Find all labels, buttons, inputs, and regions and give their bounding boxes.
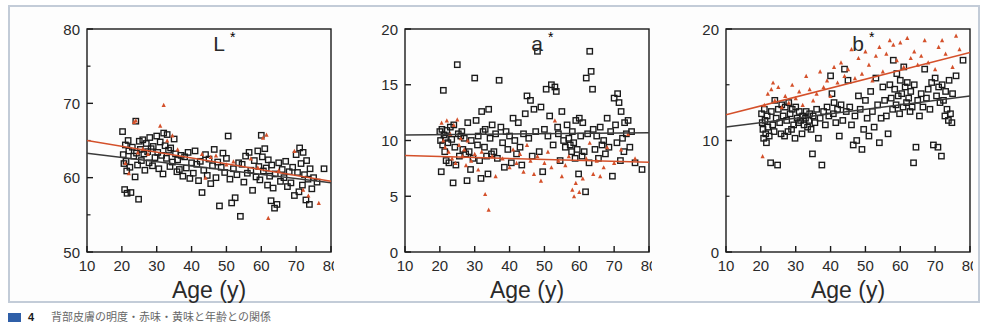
data-point-square	[212, 147, 217, 152]
x-tick-label: 20	[753, 257, 770, 274]
data-point-triangle	[933, 67, 937, 71]
caption-marker-icon	[8, 313, 21, 322]
data-point-triangle	[162, 103, 166, 107]
data-point-triangle	[165, 138, 169, 142]
data-point-triangle	[574, 181, 578, 185]
data-point-square	[523, 111, 528, 116]
x-tick-label: 70	[606, 257, 623, 274]
data-point-triangle	[317, 201, 321, 205]
x-tick-label: 20	[114, 257, 131, 274]
data-point-triangle	[822, 85, 826, 89]
data-point-square	[856, 93, 861, 98]
data-point-square	[590, 87, 595, 92]
data-point-square	[934, 93, 939, 98]
data-point-square	[276, 160, 281, 165]
data-point-square	[870, 109, 875, 114]
data-point-square	[121, 152, 126, 157]
data-point-triangle	[521, 170, 525, 174]
data-point-square	[912, 82, 917, 87]
data-point-square	[225, 133, 230, 138]
data-point-square	[863, 98, 868, 103]
figure-root: 506070801020304050607080L*Age (y) 051015…	[0, 0, 988, 326]
x-tick-label: 30	[466, 257, 483, 274]
data-point-square	[278, 179, 283, 184]
data-point-square	[486, 107, 491, 112]
data-point-triangle	[264, 132, 268, 136]
data-point-square	[868, 89, 873, 94]
data-point-square	[234, 172, 239, 177]
data-point-square	[610, 173, 615, 178]
data-point-square	[816, 136, 821, 141]
data-point-square	[161, 130, 166, 135]
data-point-square	[864, 116, 869, 121]
data-point-triangle	[553, 118, 557, 122]
data-point-square	[482, 144, 487, 149]
data-point-triangle	[856, 56, 860, 60]
data-point-square	[496, 78, 501, 83]
y-tick-label: 70	[63, 95, 80, 112]
data-point-square	[477, 158, 482, 163]
data-point-square	[472, 75, 477, 80]
data-point-square	[576, 171, 581, 176]
x-tick-label: 40	[183, 257, 200, 274]
data-point-triangle	[937, 45, 941, 49]
plot-frame	[87, 29, 331, 252]
data-point-triangle	[923, 38, 927, 42]
data-point-square	[140, 137, 145, 142]
x-tick-label: 50	[536, 257, 553, 274]
data-point-square	[792, 136, 797, 141]
data-point-square	[799, 131, 804, 136]
data-point-square	[519, 162, 524, 167]
data-point-triangle	[832, 65, 836, 69]
data-point-square	[604, 116, 609, 121]
data-point-square	[840, 118, 845, 123]
data-point-square	[478, 176, 483, 181]
data-point-square	[859, 147, 864, 152]
data-point-square	[922, 66, 927, 71]
data-point-square	[837, 133, 842, 138]
data-point-square	[564, 122, 569, 127]
data-point-triangle	[591, 172, 595, 176]
x-tick-label: 10	[718, 257, 735, 274]
data-point-triangle	[769, 87, 773, 91]
data-point-triangle	[577, 190, 581, 194]
x-tick-label: 40	[822, 257, 839, 274]
data-point-square	[953, 73, 958, 78]
data-point-square	[455, 62, 460, 67]
data-point-square	[814, 107, 819, 112]
data-point-square	[819, 162, 824, 167]
data-point-square	[831, 100, 836, 105]
data-point-square	[547, 113, 552, 118]
data-point-square	[196, 178, 201, 183]
data-point-triangle	[797, 89, 801, 93]
data-point-square	[823, 122, 828, 127]
data-point-square	[468, 167, 473, 172]
data-point-square	[464, 178, 469, 183]
data-point-triangle	[761, 154, 765, 158]
data-point-square	[132, 174, 137, 179]
data-point-triangle	[588, 141, 592, 145]
data-point-square	[594, 133, 599, 138]
data-point-square	[584, 75, 589, 80]
data-point-triangle	[957, 47, 961, 51]
data-point-square	[227, 176, 232, 181]
data-point-square	[450, 180, 455, 185]
data-point-square	[591, 127, 596, 132]
data-point-triangle	[944, 51, 948, 55]
data-point-square	[833, 120, 838, 125]
data-point-square	[917, 113, 922, 118]
data-point-square	[475, 142, 480, 147]
data-layer	[726, 34, 970, 168]
x-tick-label: 10	[79, 257, 96, 274]
data-point-square	[288, 180, 293, 185]
x-tick-label: 50	[857, 257, 874, 274]
data-point-square	[500, 140, 505, 145]
panel-title: L	[213, 32, 225, 55]
data-point-square	[632, 160, 637, 165]
data-point-square	[540, 169, 545, 174]
data-point-triangle	[950, 65, 954, 69]
panel-a-star: 051015201020304050607080a*Age (y)	[328, 7, 652, 305]
data-point-triangle	[292, 149, 296, 153]
data-point-triangle	[940, 38, 944, 42]
data-point-triangle	[464, 163, 468, 167]
